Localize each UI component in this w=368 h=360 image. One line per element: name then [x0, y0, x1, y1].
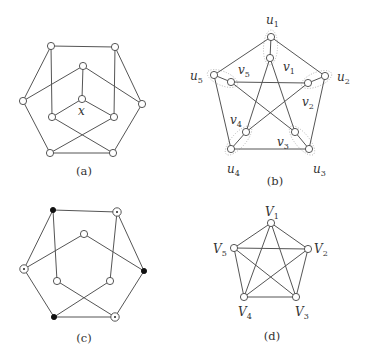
vertex: [305, 145, 312, 152]
graph-edge: [57, 281, 115, 317]
vertex-label: V5: [213, 242, 227, 258]
vertex: [266, 54, 273, 61]
vertex: [19, 97, 26, 104]
vertex: [230, 244, 237, 251]
vertex-label: u5: [190, 69, 203, 85]
vertex-center-dot: [23, 268, 25, 270]
vertex: [292, 293, 299, 300]
vertex-label: v1: [283, 60, 295, 76]
vertex: [304, 245, 311, 252]
vertex: [106, 277, 113, 284]
graph-edge: [54, 281, 110, 317]
panel-caption: (b): [267, 174, 283, 188]
vertex: [321, 72, 328, 79]
graph-edge: [271, 223, 308, 249]
filled-vertex: [141, 268, 146, 273]
graph-edge: [271, 37, 325, 76]
graph-edge: [309, 76, 325, 149]
vertex: [242, 128, 249, 135]
graph-edge: [110, 212, 117, 281]
graph-edge: [244, 223, 271, 297]
vertex-label: V3: [295, 305, 309, 321]
panel-caption: (a): [76, 164, 92, 178]
graph-edge: [246, 83, 308, 132]
graph-edge: [271, 223, 296, 297]
vertex-label: u4: [227, 162, 240, 178]
graph-edge: [244, 249, 308, 297]
graph-edge: [113, 104, 142, 153]
vertex: [47, 42, 54, 49]
vertex: [48, 113, 55, 120]
vertex: [210, 71, 217, 78]
graph-edge: [23, 101, 50, 153]
vertex: [110, 113, 117, 120]
graph-edge: [24, 269, 54, 317]
graph-edge: [114, 47, 115, 117]
vertex-label: V4: [238, 305, 252, 321]
graph-edge: [53, 210, 117, 212]
filled-vertex: [50, 207, 55, 212]
figure-canvas: x(a) u1v1u2v2u3v3u4v4u5v5(b) (c) V1V2V3V…: [0, 0, 368, 360]
filled-vertex: [51, 314, 56, 319]
graph-edge: [53, 210, 57, 281]
vertex-label: V2: [314, 242, 328, 258]
vertex: [291, 128, 298, 135]
vertex: [79, 62, 86, 69]
graph-edge: [234, 248, 308, 249]
panel-a-hexagonal-graph-with-center-x: x(a): [19, 42, 145, 178]
vertex-label: x: [78, 104, 85, 118]
vertex: [111, 43, 118, 50]
vertex-label: u3: [313, 162, 326, 178]
graph-edge: [234, 223, 271, 248]
vertex-label: V1: [265, 205, 279, 221]
vertex: [80, 230, 87, 237]
vertex: [267, 33, 274, 40]
graph-edge: [234, 248, 296, 297]
panel-caption: (d): [264, 329, 280, 343]
vertex-label: u1: [266, 13, 279, 29]
panel-d-complete-graph-k5: V1V2V3V4V5(d): [213, 205, 328, 343]
vertex-center-dot: [116, 211, 118, 213]
vertex-label: u2: [337, 70, 350, 86]
vertex: [304, 79, 311, 86]
vertex-center-dot: [114, 316, 116, 318]
graph-edge: [51, 46, 52, 117]
vertex-label: v2: [302, 95, 314, 111]
vertex: [138, 100, 145, 107]
graph-edge: [231, 82, 308, 83]
vertex: [46, 149, 53, 156]
graph-edge: [115, 271, 144, 317]
panel-b-petersen-graph-labeled: u1v1u2v2u3v3u4v4u5v5(b): [190, 13, 350, 188]
vertex: [227, 78, 234, 85]
vertex: [227, 145, 234, 152]
vertex: [53, 277, 60, 284]
panel-caption: (c): [76, 331, 91, 345]
graph-edge: [82, 66, 83, 99]
vertex: [240, 293, 247, 300]
vertex: [109, 149, 116, 156]
vertex: [78, 95, 85, 102]
vertex-label: v5: [238, 63, 250, 79]
vertex-label: v4: [230, 113, 242, 129]
graph-edge: [51, 46, 115, 47]
graph-edge: [82, 99, 114, 117]
panel-c-graph-with-marked-vertices: (c): [20, 207, 147, 345]
vertex-label: v3: [277, 135, 289, 151]
